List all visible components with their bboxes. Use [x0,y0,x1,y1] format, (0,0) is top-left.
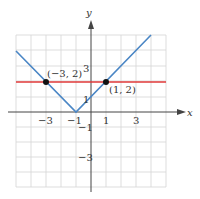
tick-x-3: 3 [133,115,139,126]
axes [8,26,180,192]
tick-y-3: 3 [83,63,89,74]
point-b-label: (1, 2) [109,84,136,95]
y-axis-label: y [85,7,92,18]
y-axis-arrow-icon [88,20,94,29]
point-a [43,79,49,85]
tick-y-m3: −3 [78,152,93,163]
tick-y-1: 1 [83,94,89,105]
x-axis-arrow-icon [177,109,186,115]
x-axis-label: x [187,107,193,118]
tick-x-m3: −3 [38,115,53,126]
tick-y-m1: −1 [78,122,93,133]
tick-x-1: 1 [103,115,109,126]
graph: x y −3 −1 1 3 3 1 −1 −3 (−3, 2) (1, 2) [0,0,200,199]
point-a-label: (−3, 2) [47,68,82,79]
